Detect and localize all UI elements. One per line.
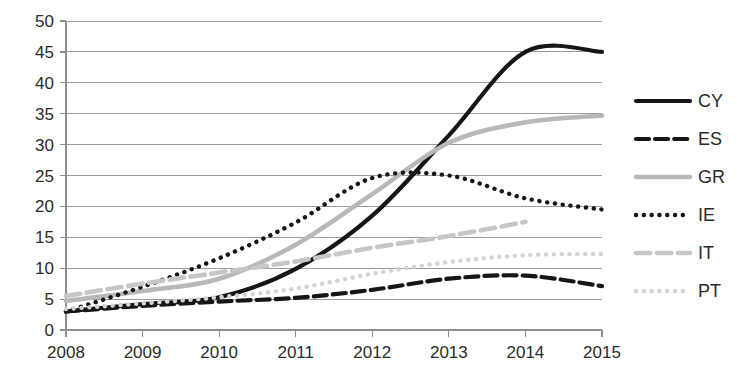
- x-tick-label: 2008: [47, 343, 85, 362]
- x-tick-label: 2009: [124, 343, 162, 362]
- x-tick-label: 2010: [200, 343, 238, 362]
- series-line-es: [66, 275, 602, 311]
- series-line-gr: [66, 116, 602, 301]
- legend-item-cy[interactable]: CY: [636, 91, 723, 111]
- x-tick-label: 2013: [430, 343, 468, 362]
- x-tick-label: 2011: [277, 343, 314, 362]
- y-tick-label: 50: [35, 12, 54, 31]
- y-tick-label: 10: [35, 259, 54, 278]
- chart-legend: CYESGRIEITPT: [636, 91, 725, 301]
- y-tick-label: 30: [35, 136, 54, 155]
- y-tick-label: 35: [35, 105, 54, 124]
- legend-item-gr[interactable]: GR: [636, 167, 725, 187]
- legend-item-es[interactable]: ES: [636, 129, 722, 149]
- legend-label-gr: GR: [698, 167, 725, 187]
- y-tick-label: 45: [35, 43, 54, 62]
- x-tick-label: 2015: [583, 343, 621, 362]
- y-tick-label: 40: [35, 74, 54, 93]
- y-tick-label: 5: [45, 290, 54, 309]
- legend-label-pt: PT: [698, 281, 721, 301]
- y-axis-tick-labels: 05101520253035404550: [35, 12, 54, 340]
- x-axis-tick-labels: 20082009201020112012201320142015: [47, 343, 621, 362]
- legend-item-it[interactable]: IT: [636, 243, 714, 263]
- y-tick-label: 25: [35, 167, 54, 186]
- line-chart: 05101520253035404550 2008200920102011201…: [0, 0, 748, 386]
- y-tick-label: 15: [35, 228, 54, 247]
- y-tick-label: 20: [35, 197, 54, 216]
- legend-label-es: ES: [698, 129, 722, 149]
- legend-label-cy: CY: [698, 91, 723, 111]
- chart-container: 05101520253035404550 2008200920102011201…: [0, 0, 748, 386]
- y-tick-label: 0: [45, 321, 54, 340]
- series-line-pt: [66, 254, 602, 309]
- legend-item-ie[interactable]: IE: [636, 205, 715, 225]
- legend-item-pt[interactable]: PT: [636, 281, 721, 301]
- legend-label-ie: IE: [698, 205, 715, 225]
- x-tick-label: 2012: [353, 343, 391, 362]
- legend-label-it: IT: [698, 243, 714, 263]
- data-series: [66, 46, 602, 312]
- series-line-cy: [66, 46, 602, 312]
- series-line-it: [66, 222, 525, 296]
- x-tick-label: 2014: [507, 343, 545, 362]
